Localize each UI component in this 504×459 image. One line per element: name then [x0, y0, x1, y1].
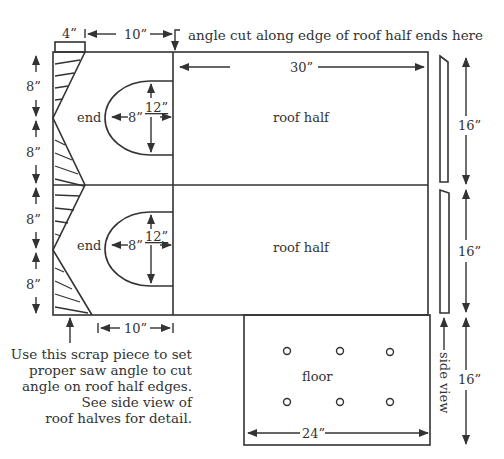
dim-end-width-bottom: 10”	[124, 321, 147, 336]
scrap-note-line-1: Use this scrap piece to set	[11, 346, 193, 362]
dim-arch-bottom-depth: 8”	[128, 238, 143, 253]
label-roof-half-bottom: roof half	[273, 240, 330, 255]
scrap-note-line-2: proper saw angle to cut	[29, 362, 193, 378]
dim-right-16-top: 16”	[458, 118, 481, 133]
side-view-roof-top	[440, 56, 448, 182]
label-end-bottom: end	[77, 238, 101, 253]
floor-holes	[284, 348, 394, 406]
label-end-top: end	[77, 110, 101, 125]
dim-left-8-3: 8”	[26, 212, 41, 227]
scrap-note-line-3: angle on roof half edges.	[22, 378, 192, 394]
dim-left-8-4: 8”	[26, 277, 41, 292]
dim-left-8-2: 8”	[26, 145, 41, 160]
label-roof-half-top: roof half	[273, 110, 330, 125]
floor-panel	[244, 315, 430, 445]
dim-end-width-top: 10”	[124, 27, 147, 42]
top-note: angle cut along edge of roof half ends h…	[188, 27, 483, 43]
dim-scrap-width: 4”	[62, 26, 77, 41]
scrap-tab	[55, 42, 85, 52]
dim-right-16-floor: 16”	[458, 372, 481, 387]
dim-arch-top-height: 12”	[145, 100, 168, 115]
cutting-diagram: 4” 10” angle cut along edge of roof half…	[0, 0, 504, 459]
dim-right-16-middle: 16”	[458, 244, 481, 259]
label-floor: floor	[302, 369, 333, 384]
dim-left-8-1: 8”	[26, 79, 41, 94]
dim-arch-bottom-height: 12”	[145, 229, 168, 244]
side-view-label: side view	[437, 352, 452, 413]
main-board	[53, 52, 428, 315]
scrap-hatching	[55, 60, 88, 313]
side-view-roof-bottom	[440, 190, 449, 313]
dim-floor-width: 24”	[302, 426, 325, 441]
scrap-note-line-5: roof halves for detail.	[45, 410, 192, 426]
dim-arch-top-depth: 8”	[128, 110, 143, 125]
dim-roof-length: 30”	[290, 60, 313, 75]
scrap-note-line-4: See side view of	[81, 394, 193, 410]
